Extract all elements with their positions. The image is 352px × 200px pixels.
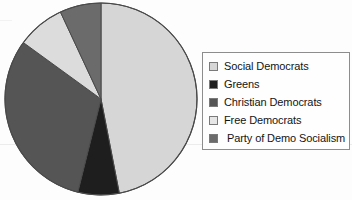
legend-item-label: Greens <box>224 78 259 91</box>
pie-slice-group <box>5 3 197 195</box>
legend-swatch-icon <box>209 116 218 125</box>
legend-item-label: Free Democrats <box>224 114 301 127</box>
legend-item-free-democrats[interactable]: Free Democrats <box>209 112 345 129</box>
legend-item-label: Party of Demo Socialism <box>224 132 345 145</box>
legend-item-greens[interactable]: Greens <box>209 76 345 93</box>
legend-item-christian-democrats[interactable]: Christian Democrats <box>209 94 345 111</box>
pie-slice[interactable] <box>101 3 197 193</box>
legend-item-social-democrats[interactable]: Social Democrats <box>209 58 345 75</box>
legend-item-party-of-demo-socialism[interactable]: Party of Demo Socialism <box>209 130 345 147</box>
legend-swatch-icon <box>209 98 218 107</box>
pie-chart-figure: Social Democrats Greens Christian Democr… <box>0 0 352 200</box>
legend-item-label: Christian Democrats <box>224 96 322 109</box>
chart-legend: Social Democrats Greens Christian Democr… <box>202 52 350 150</box>
legend-swatch-icon <box>209 80 218 89</box>
legend-swatch-icon <box>209 62 218 71</box>
pie-chart-svg <box>2 0 200 198</box>
legend-swatch-icon <box>209 134 218 143</box>
legend-item-label: Social Democrats <box>224 60 309 73</box>
pie-chart-plot-area <box>2 0 200 198</box>
